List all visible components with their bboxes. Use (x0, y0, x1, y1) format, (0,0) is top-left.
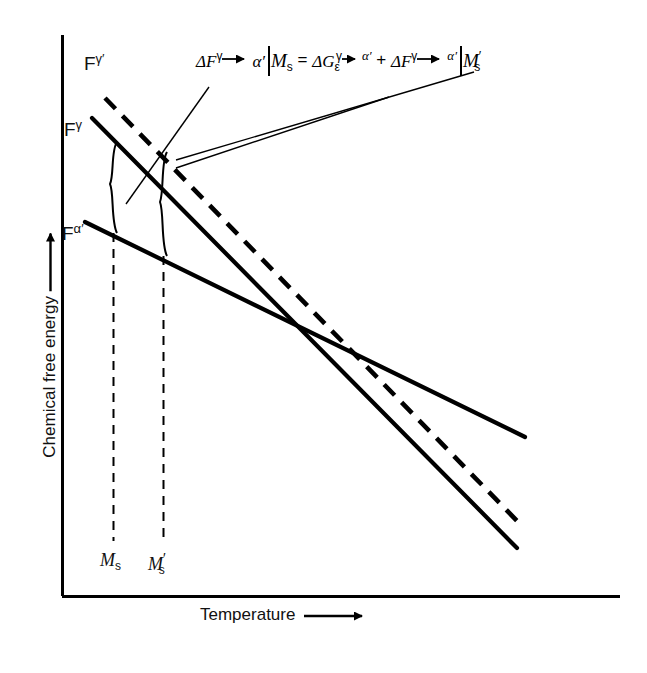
y-axis-label: Chemical free energy (41, 214, 58, 464)
equation-term3-delta: Δ (391, 52, 401, 71)
equation-annotation: ΔFγα′Ms = ΔGεγα′ + ΔFγα′M′s (196, 46, 480, 76)
curve-f-gamma-prime (105, 98, 523, 527)
equation-term1-to: α′ (252, 52, 265, 71)
curve-label-f-gamma-prime-sup: γ′ (96, 51, 105, 66)
leader-line-term1 (126, 87, 209, 204)
equation-term3-eval-bar-icon (460, 46, 462, 76)
y-axis-label-text: Chemical free energy (40, 296, 59, 458)
brace-ms-prime (160, 152, 167, 256)
x-axis-arrow-icon (300, 610, 376, 622)
curve-label-f-gamma-base: F (64, 119, 76, 140)
equation-plus: + (376, 50, 386, 69)
curve-label-f-alpha-prime-base: F (62, 223, 74, 244)
leader-line-term3 (176, 72, 474, 160)
equation-term3: ΔFγα′M′s (391, 46, 480, 76)
curve-label-f-gamma-prime-base: F (84, 53, 96, 74)
plot-svg (0, 0, 647, 673)
equation-term3-fn: F (401, 52, 411, 71)
equation-term1: ΔFγα′Ms (196, 46, 293, 76)
equation-term3-to: α′ (447, 48, 457, 63)
equation-term2: ΔGεγα′ (312, 48, 371, 74)
equation-term3-at-sub: s (474, 60, 480, 74)
equation-term2-fn: G (322, 52, 334, 71)
tick-label-ms-prime: M′s (148, 551, 165, 576)
curve-label-f-gamma-prime: Fγ′ (84, 52, 105, 73)
equation-term2-to: α′ (362, 48, 372, 63)
curve-f-gamma (92, 118, 517, 548)
curve-f-alpha-prime (85, 222, 525, 437)
curve-label-f-alpha-prime-sup: α′ (74, 221, 84, 236)
x-axis-label: Temperature (200, 606, 376, 623)
tick-label-ms: Ms (100, 551, 121, 572)
curve-label-f-gamma-sup: γ (76, 117, 83, 132)
equation-term1-at: M (271, 50, 287, 71)
brace-ms (110, 142, 117, 233)
equation-term1-delta: Δ (196, 52, 206, 71)
equation-term1-fn: F (206, 52, 216, 71)
equation-term1-eval-bar-icon (268, 46, 270, 76)
curve-label-f-alpha-prime: Fα′ (62, 222, 84, 243)
tick-label-ms-sub: s (115, 559, 121, 573)
figure-canvas: Chemical free energy Temperature Fγ′ Fγ … (0, 0, 647, 673)
curve-label-f-gamma: Fγ (64, 118, 82, 139)
equation-term2-delta: Δ (312, 52, 322, 71)
leader-line-term2 (176, 97, 389, 168)
y-axis-arrow-icon (44, 219, 56, 291)
equation-term1-arrow-icon (222, 54, 252, 64)
x-axis-label-text: Temperature (200, 605, 295, 624)
equation-equals: = (298, 50, 308, 69)
equation-term1-at-sub: s (287, 60, 293, 74)
equation-term3-arrow-icon (417, 54, 447, 64)
equation-term2-arrow-icon (342, 54, 362, 64)
tick-label-ms-prime-sub: s (159, 563, 165, 577)
tick-label-ms-base: M (100, 550, 115, 570)
